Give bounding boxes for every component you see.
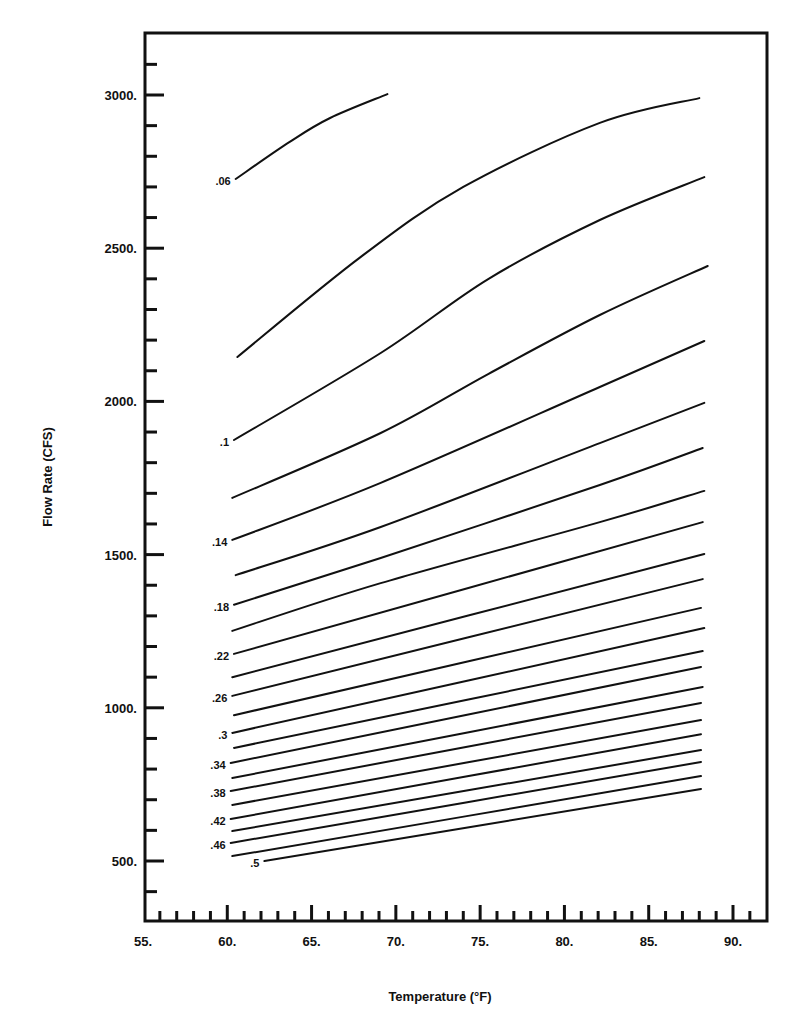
x-tick-label: 55.	[134, 934, 152, 949]
y-tick-label: 1500.	[104, 548, 137, 563]
curve-p26	[232, 579, 702, 696]
x-axis-ticks	[160, 905, 750, 921]
curve-p2	[232, 491, 704, 631]
curve-p06	[236, 94, 388, 179]
curve-labels: .06.1.14.18.22.26.3.34.38.42.46.5	[210, 175, 259, 869]
curve-label: .22	[214, 650, 229, 662]
curve-p08	[237, 98, 699, 357]
chart: 55.60.65.70.75.80.85.90. 500.1000.1500.2…	[0, 0, 805, 1025]
y-tick-label: 500.	[112, 854, 137, 869]
curve-p14	[232, 341, 704, 540]
curve-p12	[232, 266, 707, 498]
y-tick-label: 1000.	[104, 701, 137, 716]
curve-p22	[234, 522, 703, 654]
x-tick-label: 60.	[218, 934, 236, 949]
curve-label: .18	[214, 601, 229, 613]
y-tick-label: 2000.	[104, 394, 137, 409]
curve-p46	[231, 762, 701, 843]
curve-label: .14	[212, 536, 228, 548]
x-axis-tick-labels: 55.60.65.70.75.80.85.90.	[134, 934, 742, 949]
curve-label: .5	[250, 857, 259, 869]
curve-p24	[232, 554, 704, 677]
x-tick-label: 70.	[387, 934, 405, 949]
curve-label: .26	[212, 692, 227, 704]
y-axis-title: Flow Rate (CFS)	[40, 427, 55, 527]
curve-p48	[232, 776, 701, 856]
curve-p18	[234, 448, 703, 605]
curve-label: .42	[210, 815, 225, 827]
curve-label: .46	[210, 839, 225, 851]
x-tick-label: 80.	[555, 934, 573, 949]
curve-label: .38	[210, 787, 225, 799]
y-axis-tick-labels: 500.1000.1500.2000.2500.3000.	[104, 88, 137, 869]
plot-frame	[145, 33, 767, 921]
curve-label: .06	[215, 175, 230, 187]
x-tick-label: 85.	[640, 934, 658, 949]
y-tick-label: 3000.	[104, 88, 137, 103]
curve-p1	[234, 177, 704, 440]
x-tick-label: 65.	[303, 934, 321, 949]
x-tick-label: 75.	[471, 934, 489, 949]
curve-label: .3	[218, 729, 227, 741]
curve-p16	[236, 403, 705, 575]
y-tick-label: 2500.	[104, 241, 137, 256]
y-axis-ticks	[145, 64, 164, 891]
x-tick-label: 90.	[724, 934, 742, 949]
curves	[231, 94, 708, 861]
curve-label: .1	[220, 436, 229, 448]
x-axis-title: Temperature (°F)	[388, 989, 491, 1004]
curve-label: .34	[210, 759, 226, 771]
